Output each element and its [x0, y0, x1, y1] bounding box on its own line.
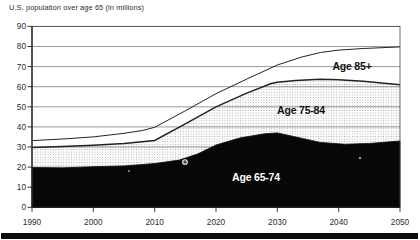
band-label: Age 85+: [332, 60, 371, 72]
y-tick-label: 70: [17, 62, 27, 72]
y-tick-label: 50: [17, 102, 27, 112]
chart-page: U.S. population over age 65 (in millions…: [0, 0, 420, 240]
x-tick-label: 2050: [391, 217, 410, 227]
x-tick-label: 2000: [84, 217, 103, 227]
x-axis-ticks: 1990200020102020203020402050: [23, 207, 410, 226]
band-label: Age 75-84: [277, 104, 325, 116]
scan-artifact-bar: [1, 233, 418, 239]
y-tick-label: 80: [17, 41, 27, 51]
y-tick-label: 0: [21, 202, 26, 212]
y-tick-label: 40: [17, 122, 27, 132]
band-label: Age 65-74: [232, 171, 280, 183]
y-tick-label: 30: [17, 142, 27, 152]
x-tick-label: 2040: [329, 217, 348, 227]
y-tick-label: 20: [17, 162, 27, 172]
x-tick-label: 2030: [268, 217, 287, 227]
stacked-area-chart: 0102030405060708090199020002010202020302…: [0, 0, 420, 240]
x-tick-label: 1990: [23, 217, 42, 227]
y-tick-label: 10: [17, 182, 27, 192]
y-tick-label: 90: [17, 21, 27, 31]
x-tick-label: 2020: [207, 217, 226, 227]
y-axis-ticks: 0102030405060708090: [17, 21, 32, 212]
x-tick-label: 2010: [145, 217, 164, 227]
y-tick-label: 60: [17, 82, 27, 92]
